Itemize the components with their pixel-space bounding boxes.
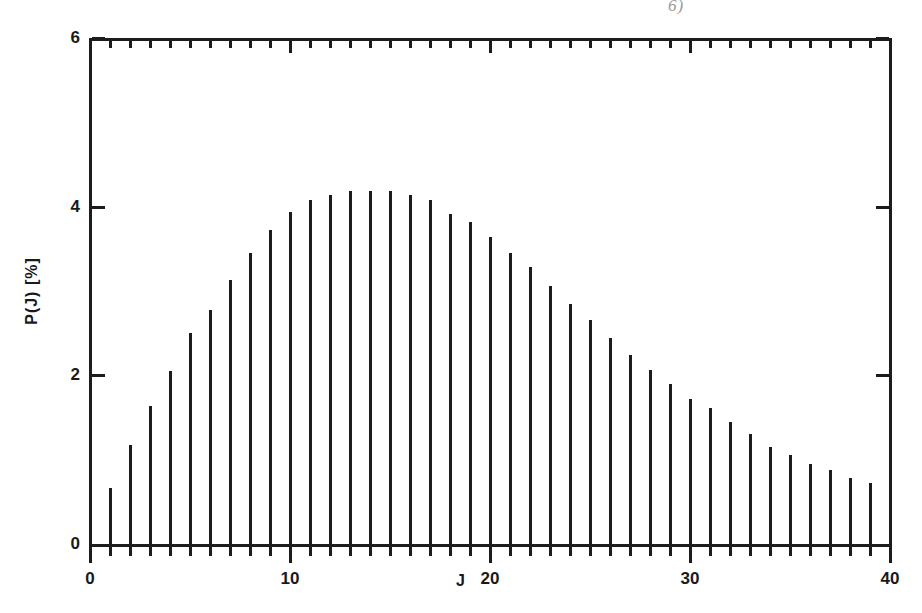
x-tick-40 [889, 544, 892, 563]
x-tick-22 [529, 544, 532, 556]
x-tick-6 [209, 544, 212, 556]
x-tick-top-36 [809, 38, 812, 48]
y-tick-label-6: 6 [71, 28, 80, 48]
x-tick-8 [249, 544, 252, 556]
x-tick-top-19 [469, 38, 472, 48]
x-tick-15 [389, 544, 392, 556]
y-tick-2 [92, 374, 105, 377]
x-tick-31 [709, 544, 712, 556]
bar-j-36 [809, 464, 812, 544]
x-tick-top-11 [309, 38, 312, 48]
x-tick-4 [169, 544, 172, 556]
x-tick-33 [749, 544, 752, 556]
x-tick-14 [369, 544, 372, 556]
x-tick-24 [569, 544, 572, 556]
x-tick-0 [89, 544, 92, 563]
bar-j-38 [849, 478, 852, 544]
x-tick-top-8 [249, 38, 252, 48]
x-tick-12 [329, 544, 332, 556]
x-tick-21 [509, 544, 512, 556]
x-tick-top-21 [509, 38, 512, 48]
y-tick-right-6 [876, 37, 889, 40]
bar-j-20 [489, 237, 492, 544]
x-tick-top-17 [429, 38, 432, 48]
x-tick-top-3 [149, 38, 152, 48]
x-tick-top-13 [349, 38, 352, 48]
x-tick-top-38 [849, 38, 852, 48]
x-tick-top-24 [569, 38, 572, 48]
x-tick-32 [729, 544, 732, 556]
x-tick-top-2 [129, 38, 132, 48]
x-tick-19 [469, 544, 472, 556]
bar-j-40 [889, 488, 892, 544]
x-tick-28 [649, 544, 652, 556]
bar-j-10 [289, 212, 292, 544]
x-tick-9 [269, 544, 272, 556]
axis-frame-left [89, 38, 92, 547]
bar-j-22 [529, 267, 532, 544]
x-tick-top-39 [869, 38, 872, 48]
x-tick-1 [109, 544, 112, 556]
x-tick-11 [309, 544, 312, 556]
x-tick-top-14 [369, 38, 372, 48]
x-tick-2 [129, 544, 132, 556]
bar-j-14 [369, 191, 372, 544]
x-tick-16 [409, 544, 412, 556]
bar-j-5 [189, 333, 192, 544]
x-tick-top-10 [289, 38, 292, 53]
bar-j-33 [749, 434, 752, 544]
bar-j-31 [709, 408, 712, 544]
bar-j-9 [269, 230, 272, 544]
axis-frame-right [889, 38, 892, 547]
x-tick-3 [149, 544, 152, 556]
bar-j-2 [129, 445, 132, 544]
x-tick-top-22 [529, 38, 532, 48]
scan-artifact-glyph: 6) [668, 0, 684, 16]
bar-j-27 [629, 355, 632, 544]
y-axis-title: P(J) [%] [23, 241, 41, 341]
x-tick-13 [349, 544, 352, 556]
x-tick-top-20 [489, 38, 492, 53]
bar-j-25 [589, 320, 592, 544]
x-tick-top-12 [329, 38, 332, 48]
x-tick-top-16 [409, 38, 412, 48]
bar-j-11 [309, 200, 312, 544]
x-tick-5 [189, 544, 192, 556]
x-tick-23 [549, 544, 552, 556]
y-tick-label-0: 0 [71, 534, 80, 554]
y-tick-label-4: 4 [71, 197, 80, 217]
bar-j-17 [429, 200, 432, 544]
x-tick-26 [609, 544, 612, 556]
bar-j-28 [649, 370, 652, 544]
x-tick-17 [429, 544, 432, 556]
bar-j-37 [829, 470, 832, 544]
bar-j-29 [669, 384, 672, 544]
bar-j-35 [789, 455, 792, 544]
x-axis-title: J [0, 572, 922, 590]
x-tick-7 [229, 544, 232, 556]
x-tick-top-32 [729, 38, 732, 48]
x-tick-top-15 [389, 38, 392, 48]
x-tick-top-34 [769, 38, 772, 48]
x-tick-top-40 [889, 38, 892, 53]
y-tick-4 [92, 206, 105, 209]
x-tick-top-37 [829, 38, 832, 48]
y-tick-right-4 [876, 206, 889, 209]
bar-j-21 [509, 253, 512, 544]
x-tick-top-31 [709, 38, 712, 48]
bar-j-30 [689, 399, 692, 544]
x-tick-top-7 [229, 38, 232, 48]
x-tick-25 [589, 544, 592, 556]
x-tick-top-0 [89, 38, 92, 53]
x-tick-37 [829, 544, 832, 556]
bar-j-13 [349, 191, 352, 544]
y-tick-right-2 [876, 374, 889, 377]
x-tick-top-26 [609, 38, 612, 48]
bar-j-3 [149, 406, 152, 544]
x-tick-top-29 [669, 38, 672, 48]
x-tick-39 [869, 544, 872, 556]
bar-j-12 [329, 195, 332, 544]
plot-area: 0246 010203040 [89, 38, 892, 547]
x-tick-29 [669, 544, 672, 556]
y-tick-label-2: 2 [71, 365, 80, 385]
